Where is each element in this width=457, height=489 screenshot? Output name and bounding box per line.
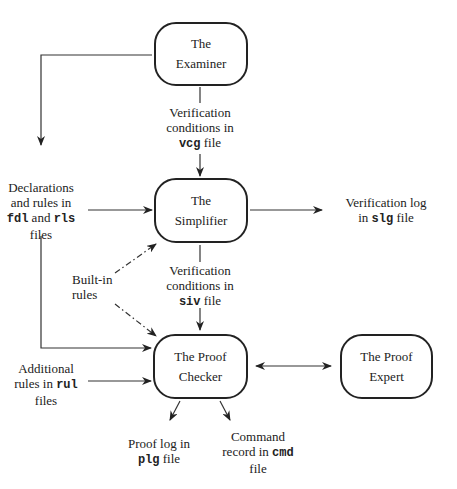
label-rul: Additional rules in rul files — [6, 361, 86, 408]
label-plg-line1: Proof log in — [114, 436, 204, 451]
code-siv: siv — [179, 295, 201, 309]
label-fdl-line2: and rules in — [0, 195, 88, 210]
node-examiner: The Examiner — [154, 22, 248, 86]
label-fdl-mid: and — [28, 210, 53, 225]
code-vcg: vcg — [179, 137, 201, 151]
label-cmd: Command record in cmd file — [208, 429, 308, 476]
label-rul-line3: files — [6, 393, 86, 408]
label-slg-line1: Verification log — [326, 195, 446, 210]
node-examiner-line2: Examiner — [176, 54, 227, 74]
node-proof-checker-line1: The Proof — [174, 347, 226, 367]
label-plg: Proof log in plg file — [114, 436, 204, 468]
label-rul-prefix: rules in — [14, 376, 56, 391]
label-builtin-line1: Built-in — [72, 272, 112, 287]
label-plg-line2: plg file — [114, 451, 204, 468]
label-vcg-suffix: file — [201, 135, 222, 150]
code-rls: rls — [54, 212, 76, 226]
label-slg-suffix: file — [393, 210, 414, 225]
label-rul-line2: rules in rul — [6, 376, 86, 393]
node-simplifier-line2: Simplifier — [175, 211, 228, 231]
code-slg: slg — [372, 212, 394, 226]
label-siv-line1: Verification — [150, 263, 250, 278]
label-vcg: Verification conditions in vcg file — [150, 105, 250, 152]
label-builtin-rules: Built-in rules — [72, 272, 112, 302]
label-fdl-line3: fdl and rls — [0, 210, 88, 227]
arrow-checker-plg — [170, 401, 180, 420]
label-siv-line2: conditions in — [150, 278, 250, 293]
code-plg: plg — [138, 453, 160, 467]
code-fdl: fdl — [7, 212, 29, 226]
label-rul-line1: Additional — [6, 361, 86, 376]
label-slg: Verification log in slg file — [326, 195, 446, 227]
label-cmd-line1: Command — [208, 429, 308, 444]
node-proof-expert-line1: The Proof — [360, 347, 412, 367]
label-slg-line2: in slg file — [326, 210, 446, 227]
label-fdl-rls: Declarations and rules in fdl and rls fi… — [0, 180, 88, 242]
arrow-examiner-fdl — [41, 55, 152, 145]
label-builtin-line2: rules — [72, 287, 112, 302]
node-simplifier-line1: The — [191, 191, 211, 211]
node-proof-checker-line2: Checker — [179, 367, 222, 387]
label-fdl-line4: files — [0, 227, 88, 242]
label-siv-suffix: file — [201, 293, 222, 308]
node-simplifier: The Simplifier — [154, 178, 248, 243]
label-vcg-line2: conditions in — [150, 120, 250, 135]
node-proof-checker: The Proof Checker — [153, 334, 248, 399]
node-proof-expert: The Proof Expert — [340, 334, 433, 399]
label-vcg-line3: vcg file — [150, 135, 250, 152]
label-cmd-line3: file — [208, 461, 308, 476]
label-slg-prefix: in — [358, 210, 371, 225]
node-examiner-line1: The — [191, 34, 211, 54]
label-fdl-line1: Declarations — [0, 180, 88, 195]
label-cmd-line2: record in cmd — [208, 444, 308, 461]
label-cmd-prefix: record in — [222, 444, 272, 459]
code-cmd: cmd — [272, 446, 294, 460]
arrow-checker-cmd — [220, 401, 230, 420]
node-proof-expert-line2: Expert — [369, 367, 404, 387]
label-siv-line3: siv file — [150, 293, 250, 310]
code-rul: rul — [56, 378, 78, 392]
label-plg-suffix: file — [160, 451, 181, 466]
label-vcg-line1: Verification — [150, 105, 250, 120]
label-siv: Verification conditions in siv file — [150, 263, 250, 310]
